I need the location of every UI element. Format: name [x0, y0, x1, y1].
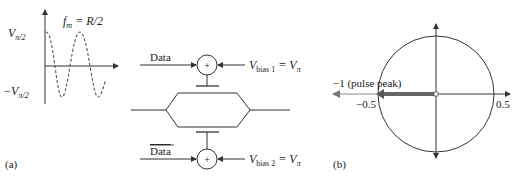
- panel-b-label: (b): [333, 158, 346, 171]
- plus-symbol-bottom: +: [204, 154, 210, 165]
- tick-pos-half: 0.5: [496, 98, 510, 110]
- waveform-plot: fm = R/2 Vπ/2 −Vπ/2: [3, 10, 118, 104]
- mach-zehnder-modulator: Data + Vbias 1 = Vπ + Data Vbias 2 = Vπ: [131, 51, 302, 169]
- pulse-peak-phasor: [384, 92, 436, 96]
- plus-symbol-top: +: [204, 60, 210, 71]
- bias1-label: Vbias 1 = Vπ: [249, 58, 302, 74]
- figure: fm = R/2 Vπ/2 −Vπ/2 (a) Data + Vbias 1 =…: [0, 0, 527, 181]
- pulse-peak-arrowhead: [376, 89, 384, 99]
- tick-neg-half: −0.5: [356, 98, 376, 110]
- phasor-diagram: −1 (pulse peak) −0.5 0.5: [333, 24, 510, 158]
- interferometer-arms: [166, 93, 250, 127]
- modulation-frequency-label: fm = R/2: [63, 14, 103, 30]
- v-neg-label: −Vπ/2: [3, 84, 29, 100]
- data-bar-label: Data: [150, 145, 171, 157]
- sine-wave-dashed: [46, 32, 106, 97]
- pulse-peak-label: −1 (pulse peak): [333, 77, 402, 90]
- bias2-label: Vbias 2 = Vπ: [249, 152, 302, 168]
- panel-a-label: (a): [5, 158, 18, 171]
- origin-marker: [434, 92, 438, 96]
- v-pos-label: Vπ/2: [8, 26, 26, 42]
- data-label: Data: [150, 51, 171, 63]
